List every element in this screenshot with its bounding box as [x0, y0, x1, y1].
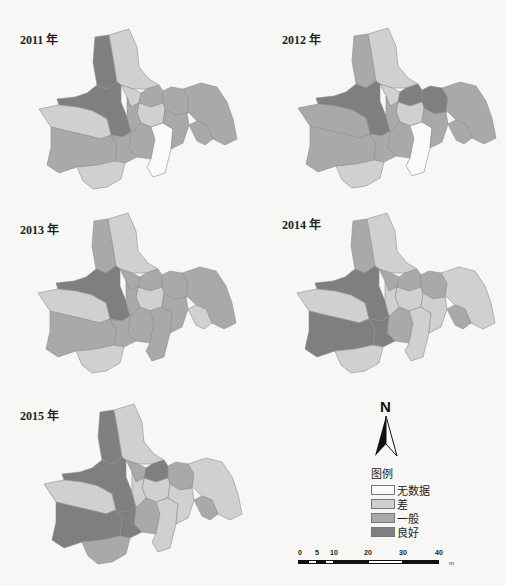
scale-tick: 40	[435, 549, 443, 556]
region-north	[109, 29, 159, 89]
map-svg	[36, 211, 241, 376]
choropleth-map	[295, 211, 500, 380]
legend-item-nodata: 无数据	[371, 483, 430, 497]
map-panel-2015: 2015 年	[0, 390, 253, 585]
legend-swatch	[371, 499, 395, 509]
choropleth-map	[296, 26, 501, 195]
scale-tick: 0	[298, 549, 302, 556]
legend-item-poor: 差	[371, 497, 430, 511]
legend-swatch	[371, 527, 395, 537]
legend-item-good: 良好	[371, 525, 430, 539]
map-svg	[295, 211, 500, 376]
legend-swatch	[371, 513, 395, 523]
region-north	[114, 404, 164, 464]
map-panel-2013: 2013 年	[0, 195, 253, 390]
legend-swatch	[371, 485, 395, 495]
legend-label: 良好	[397, 524, 419, 540]
scale-bar: 0 5 10 20 30 40 m	[298, 549, 474, 569]
map-svg	[37, 27, 242, 192]
legend-item-fair: 一般	[371, 511, 430, 525]
region-north	[108, 213, 158, 273]
map-panel-2012: 2012 年	[253, 0, 506, 195]
map-svg	[42, 402, 247, 567]
scale-tick: 10	[330, 549, 338, 556]
choropleth-map	[42, 402, 247, 571]
scale-tick: 5	[315, 549, 319, 556]
map-svg	[296, 26, 501, 191]
scale-unit: m	[449, 560, 454, 566]
scale-tick: 30	[399, 549, 407, 556]
region-north	[368, 28, 418, 88]
legend-title: 图例	[371, 465, 430, 481]
north-arrow: N	[372, 398, 402, 458]
map-panel-2014: 2014 年	[253, 195, 506, 390]
choropleth-map	[36, 211, 241, 380]
map-panel-2011: 2011 年	[0, 0, 253, 195]
north-arrow-icon	[372, 414, 402, 460]
region-north	[367, 213, 417, 273]
legend: 图例 无数据 差 一般 良好	[371, 465, 430, 539]
north-label: N	[380, 398, 391, 415]
scale-tick: 20	[364, 549, 372, 556]
choropleth-map	[37, 27, 242, 196]
